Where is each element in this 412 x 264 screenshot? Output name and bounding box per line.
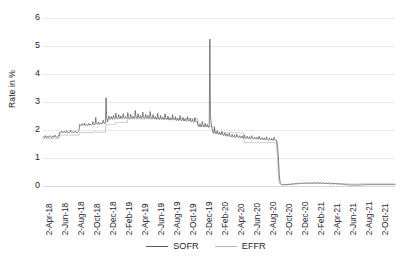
series-line-sofr [43,39,395,185]
x-tick-label-9: 2-Oct-19 [190,203,198,235]
y-tick-label-6: 6 [14,13,40,22]
x-tick-label-5: 2-Feb-19 [126,202,134,235]
x-tick-label-13: 2-Jun-20 [254,203,262,235]
x-tick-label-16: 2-Dec-20 [302,201,310,235]
legend-item-sofr[interactable]: SOFR [146,241,199,251]
x-tick-label-14: 2-Aug-20 [270,201,278,235]
x-tick-label-17: 2-Feb-21 [318,202,326,235]
x-tick-label-2: 2-Aug-18 [78,201,86,235]
y-tick-label-2: 2 [14,125,40,134]
y-tick-label-3: 3 [14,97,40,106]
x-tick-label-11: 2-Feb-20 [222,202,230,235]
legend-item-effr[interactable]: EFFR [215,241,266,251]
x-tick-label-20: 2-Aug-21 [366,201,374,235]
series-lines [43,18,395,186]
x-tick-label-6: 2-Apr-19 [142,203,150,235]
x-tick-label-15: 2-Oct-20 [286,203,294,235]
x-tick-label-10: 2-Dec-19 [206,201,214,235]
x-tick-label-8: 2-Aug-19 [174,201,182,235]
plot-area [43,18,395,186]
series-line-effr [43,119,395,185]
gridline-0 [43,186,395,187]
y-tick-label-0: 0 [14,181,40,190]
x-tick-label-7: 2-Jun-19 [158,203,166,235]
y-axis-tick-labels: 0123456 [14,0,40,264]
legend-swatch-sofr [146,246,168,247]
x-tick-label-21: 2-Oct-21 [382,203,390,235]
x-tick-label-0: 2-Apr-18 [46,203,54,235]
x-tick-label-12: 2-Apr-20 [238,203,246,235]
x-tick-label-4: 2-Dec-18 [110,201,118,235]
x-tick-label-19: 2-Jun-21 [350,203,358,235]
rate-line-chart: Rate in % 0123456 2-Apr-182-Jun-182-Aug-… [0,0,412,264]
x-tick-label-18: 2-Apr-21 [334,203,342,235]
x-axis-tick-labels: 2-Apr-182-Jun-182-Aug-182-Oct-182-Dec-18… [43,189,395,235]
y-tick-label-5: 5 [14,41,40,50]
chart-legend: SOFREFFR [0,241,412,251]
y-tick-label-1: 1 [14,153,40,162]
legend-label-sofr: SOFR [173,241,199,251]
x-tick-label-3: 2-Oct-18 [94,203,102,235]
legend-swatch-effr [215,246,237,247]
legend-label-effr: EFFR [242,241,266,251]
x-tick-label-1: 2-Jun-18 [62,203,70,235]
y-tick-label-4: 4 [14,69,40,78]
